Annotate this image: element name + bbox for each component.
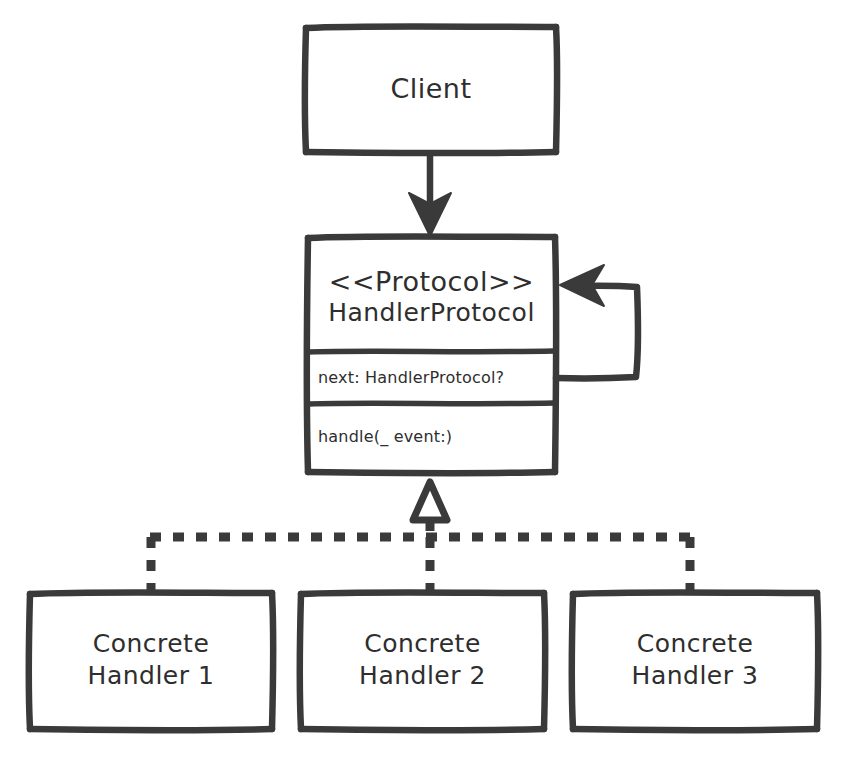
- realization-hollow-triangle-icon: [413, 482, 447, 520]
- uml-diagram-canvas: Client <<Protocol>> HandlerProtocol next…: [0, 0, 849, 768]
- diagram-svg-layer: [0, 0, 849, 768]
- concrete-handler-2-node-shape[interactable]: [300, 592, 545, 730]
- protocol-self-loop-arrow: [556, 265, 638, 378]
- handler-protocol-node-shape[interactable]: [307, 236, 556, 473]
- client-to-protocol-arrow: [409, 154, 451, 236]
- concrete-handler-3-node-shape[interactable]: [572, 592, 818, 730]
- client-node-shape[interactable]: [305, 26, 557, 153]
- realization-dashed-connector: [150, 520, 690, 594]
- concrete-handler-1-node-shape[interactable]: [29, 592, 273, 730]
